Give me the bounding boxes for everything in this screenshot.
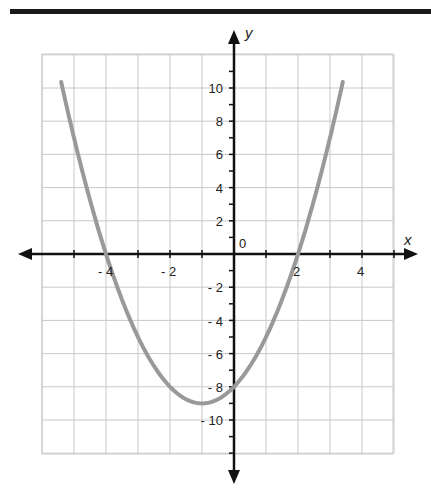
y-tick-label: 4 <box>216 181 223 196</box>
y-tick-label: - 8 <box>208 380 223 395</box>
x-tick-label: - 2 <box>161 264 176 279</box>
y-tick-label: 10 <box>209 81 223 96</box>
x-axis-left-arrow-icon <box>18 248 32 260</box>
y-tick-label: - 6 <box>208 347 223 362</box>
coordinate-plane: y x 0 - 4 - 2 2 4 10 8 6 4 2 - 2 - 4 - 6… <box>0 0 431 491</box>
y-axis-down-arrow-icon <box>228 470 240 484</box>
x-tick-label: 4 <box>357 264 364 279</box>
y-axis <box>228 30 240 484</box>
y-tick-label: 6 <box>216 147 223 162</box>
y-tick-label: 2 <box>216 214 223 229</box>
y-tick-label: 8 <box>216 114 223 129</box>
y-tick-label: - 10 <box>201 413 223 428</box>
x-axis-label: x <box>403 231 412 248</box>
y-axis-label: y <box>244 24 254 41</box>
y-tick-label: - 4 <box>208 314 223 329</box>
y-axis-up-arrow-icon <box>228 30 240 44</box>
origin-label: 0 <box>239 236 246 251</box>
y-tick-label: - 2 <box>208 280 223 295</box>
x-axis <box>18 248 418 260</box>
x-axis-right-arrow-icon <box>404 248 418 260</box>
x-tick-label: - 4 <box>98 264 113 279</box>
x-tick-label: 2 <box>293 264 300 279</box>
